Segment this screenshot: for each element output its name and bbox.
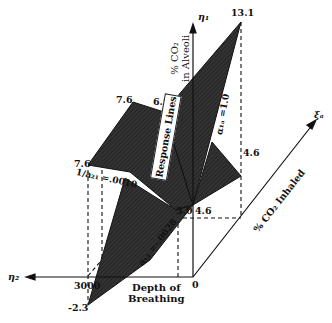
value-upper-left: 7.6	[116, 95, 133, 105]
depth-tick-label: 3000	[74, 281, 100, 291]
eta1-label-line2: in Alveoli	[181, 35, 192, 82]
value-center-left: 5.0	[176, 206, 193, 216]
eta2-arrow-icon	[26, 274, 35, 280]
xi-symbol: ξₐ	[314, 110, 324, 120]
origin-label: 0	[192, 280, 199, 290]
value-center-right: 4.6	[195, 206, 212, 216]
eta1-label-line1: % CO₂	[170, 35, 181, 82]
eta2-label-line1: Depth of	[128, 283, 185, 294]
eta1-arrow-icon	[190, 24, 196, 33]
xi-arrow-icon	[307, 120, 316, 129]
eta2-label: Depth of Breathing	[128, 283, 185, 304]
eta2-label-line2: Breathing	[128, 294, 185, 305]
eta1-symbol: η₁	[198, 12, 209, 22]
value-right: 4.6	[243, 148, 260, 158]
eta2-symbol: η₂	[8, 272, 19, 282]
value-bottom: -2.3	[68, 303, 88, 313]
eta1-label: % CO₂ in Alveoli	[170, 35, 191, 82]
value-peak: 13.1	[231, 8, 254, 18]
